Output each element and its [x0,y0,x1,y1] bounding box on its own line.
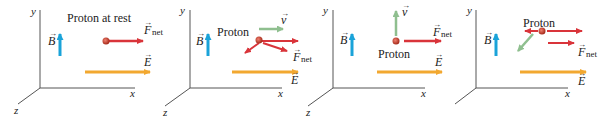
vector-hat-icon: → [197,29,205,38]
axes: y x z [305,4,426,118]
vector-hat-icon: → [341,28,349,37]
panel-4: y x Proton B → F → net E → [455,4,597,104]
x-axis-label: x [129,87,135,99]
vector-hat-icon: → [49,29,57,38]
f-subscript: net [152,27,163,37]
x-axis-label: x [564,87,570,99]
vector-hat-icon: → [485,28,493,37]
panel-caption: Proton [523,16,555,30]
z-axis-label: z [162,106,168,118]
vector-hat-icon: → [291,68,299,77]
proton-icon [256,37,263,44]
panel-3: y x z B → v → Proton F → net E → [305,1,452,118]
vector-hat-icon: → [578,69,586,78]
vector-hat-icon: → [433,20,441,29]
y-axis-label: y [466,4,472,16]
x-axis-label: x [277,87,283,99]
f-subscript: net [441,29,452,39]
magnetic-force-arrow [245,43,259,53]
vector-hat-icon: → [435,50,443,59]
vector-hat-icon: → [144,18,152,27]
panel-caption: Proton [378,47,410,61]
vector-hat-icon: → [293,45,301,54]
f-subscript: net [301,54,312,64]
panel-2: y x z Proton B → v → F → E → [162,4,301,118]
y-axis-label: y [30,5,36,17]
z-axis-label: z [13,104,19,116]
vector-hat-icon: → [281,9,289,18]
y-axis-label: y [322,4,328,16]
net-force-arrow [263,43,287,51]
vector-hat-icon: → [578,40,586,49]
panel-caption: Proton [217,25,249,39]
proton-fields-diagram: y x z Proton at rest B → F → E → y x z P… [0,0,610,124]
proton-icon [103,38,110,45]
f-subscript: net [586,49,597,59]
proton-icon [539,28,546,35]
y-axis-label: y [179,4,185,16]
panel-caption: Proton at rest [67,11,132,25]
axes: y x z [162,4,283,118]
velocity-arrow [518,34,533,51]
vector-hat-icon: → [144,50,152,59]
vector-hat-icon: → [402,1,410,10]
panel-1: y x z Proton at rest B → F → E → [13,5,152,116]
x-axis-label: x [420,87,426,99]
proton-icon [393,38,400,45]
z-axis-label: z [305,106,311,118]
